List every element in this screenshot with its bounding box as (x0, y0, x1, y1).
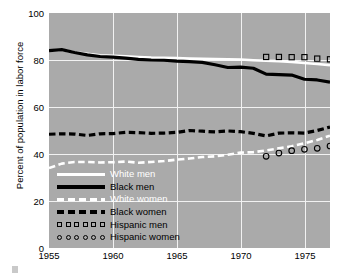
marker-hispanic-women (289, 148, 295, 154)
y-tick-label-20: 20 (18, 197, 44, 206)
line-black-women (49, 127, 330, 136)
y-tick-label-100: 100 (18, 9, 44, 18)
legend-label-hispanic-women: Hispanic women (110, 232, 180, 242)
solid-white-line-icon (57, 168, 105, 180)
marker-hispanic-women (327, 143, 330, 149)
solid-black-line-icon (57, 181, 105, 193)
x-tick-label-1965: 1965 (157, 251, 197, 261)
marker-hispanic-women (263, 154, 269, 160)
marker-hispanic-men (264, 54, 269, 59)
marker-hispanic-women (302, 147, 308, 153)
marker-hispanic-men (302, 55, 307, 60)
legend-label-white-women: White women (110, 194, 168, 204)
chart-figure: Percent of population in labor force 100… (0, 0, 340, 278)
legend-item-hispanic-women: Hispanic women (57, 231, 207, 244)
y-axis-label: Percent of population in labor force (14, 21, 25, 211)
dashed-white-line-icon (57, 193, 105, 205)
legend-item-black-men: Black men (57, 181, 207, 194)
open-circle-markers-icon (57, 231, 105, 243)
marker-hispanic-women (276, 150, 282, 156)
legend-label-black-women: Black women (110, 207, 167, 217)
legend-label-black-men: Black men (110, 182, 154, 192)
x-tick-label-1975: 1975 (285, 251, 325, 261)
open-square-markers-icon (57, 219, 105, 231)
line-black-men (49, 50, 330, 82)
legend-item-white-women: White women (57, 193, 207, 206)
x-tick-label-1960: 1960 (93, 251, 133, 261)
x-tick-label-1970: 1970 (221, 251, 261, 261)
legend-item-white-men: White men (57, 168, 207, 181)
x-tick-label-1955: 1955 (29, 251, 69, 261)
marker-hispanic-men (327, 57, 330, 62)
legend-item-hispanic-men: Hispanic men (57, 218, 207, 231)
page-corner-mark (12, 266, 18, 273)
legend-label-white-men: White men (110, 169, 155, 179)
y-tick-label-80: 80 (18, 56, 44, 65)
y-tick-label-60: 60 (18, 103, 44, 112)
marker-hispanic-men (315, 56, 320, 61)
marker-hispanic-men (276, 54, 281, 59)
chart-legend: White men Black men White women Black wo… (57, 168, 207, 244)
dashed-black-line-icon (57, 206, 105, 218)
marker-hispanic-men (289, 55, 294, 60)
legend-item-black-women: Black women (57, 206, 207, 219)
line-white-women (49, 136, 330, 168)
y-tick-label-40: 40 (18, 150, 44, 159)
marker-hispanic-women (314, 146, 320, 152)
legend-label-hispanic-men: Hispanic men (110, 220, 168, 230)
plot-area: White men Black men White women Black wo… (49, 13, 330, 248)
